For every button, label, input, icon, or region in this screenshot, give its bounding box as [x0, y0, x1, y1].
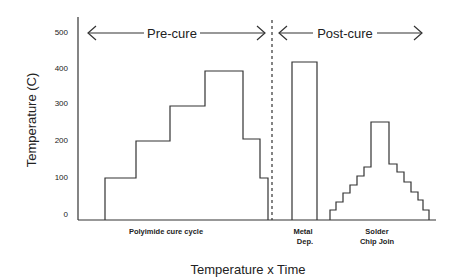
solder-chip-join-profile [330, 122, 429, 220]
cure-diagram: 500 400 300 200 100 0 Temperature (C) Pr… [0, 0, 458, 278]
solder-label-2: Chip Join [360, 237, 395, 246]
y-tick-400: 400 [55, 64, 69, 73]
solder-label-1: Solder [365, 227, 388, 236]
y-axis-title: Temperature (C) [24, 73, 39, 168]
y-tick-0: 0 [64, 210, 69, 219]
metal-dep-profile [292, 62, 317, 220]
y-tick-100: 100 [55, 173, 69, 182]
pre-cure-label: Pre-cure [147, 26, 197, 41]
polyimide-label: Polyimide cure cycle [129, 227, 203, 236]
post-cure-label: Post-cure [317, 26, 373, 41]
y-tick-300: 300 [55, 99, 69, 108]
y-tick-500: 500 [55, 28, 69, 37]
y-tick-200: 200 [55, 136, 69, 145]
metal-dep-label-1: Metal [293, 227, 312, 236]
x-axis-title: Temperature x Time [191, 262, 306, 277]
metal-dep-label-2: Dep. [297, 237, 313, 246]
polyimide-cure-profile [105, 71, 268, 220]
